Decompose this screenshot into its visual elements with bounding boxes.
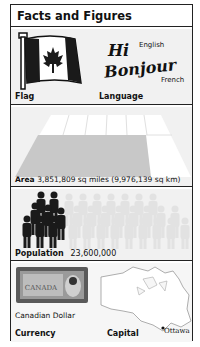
greeting-english: Hi [108,41,129,60]
population-value: 23,600,000 [70,249,116,258]
population-label: Population 23,600,000 [15,249,116,258]
capital-city: Ottawa [164,327,190,335]
language-label: Language [99,92,143,101]
banknote-icon: CANADA [15,266,89,304]
currency-capital-panel: CANADA Canadian Dollar Currency Capital … [11,263,192,342]
area-label: Area 3,851,809 sq miles (9,976,139 sq km… [15,175,180,184]
capital-label: Capital [107,329,139,338]
population-panel: Population 23,600,000 [11,189,192,261]
population-figures-icon [11,191,194,249]
flag-language-panel: Flag Hi English Bonjour French Language [11,29,192,105]
language-french: French [161,76,184,84]
area-value: 3,851,809 sq miles (9,976,139 sq km) [37,175,180,184]
language-english: English [139,41,164,49]
currency-name: Canadian Dollar [15,311,75,320]
svg-text:CANADA: CANADA [25,284,58,292]
canada-flag-icon [15,31,85,93]
currency-label: Currency [15,329,56,338]
area-grid-icon [11,109,194,177]
card-title: Facts and Figures [11,5,192,27]
area-panel: Area 3,851,809 sq miles (9,976,139 sq km… [11,107,192,187]
flag-label: Flag [15,92,34,101]
facts-card: Facts and Figures Flag Hi English Bonjou… [10,4,193,341]
